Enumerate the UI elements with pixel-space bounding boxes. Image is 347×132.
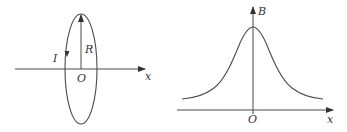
- loop-x-axis-label: x: [145, 70, 152, 83]
- current-label: I: [52, 52, 58, 65]
- loop-origin-label: O: [77, 72, 86, 85]
- radius-label: R: [84, 43, 93, 56]
- b-axis-label: B: [257, 5, 266, 18]
- current-loop-diagram: I R O x: [15, 14, 152, 124]
- graph-x-axis-label: x: [327, 113, 334, 126]
- graph-origin-label: O: [248, 113, 257, 126]
- field-graph: B O x: [177, 5, 334, 126]
- figure-canvas: I R O x B O x: [0, 0, 347, 132]
